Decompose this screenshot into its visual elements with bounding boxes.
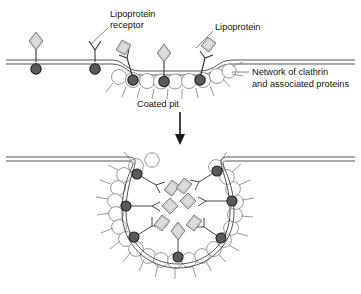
lipoprotein-inner-4 (171, 222, 185, 240)
lipoprotein-bound-2 (116, 40, 131, 55)
lipoprotein-bound-3 (157, 44, 171, 62)
pit2-receptor-1 (132, 169, 180, 196)
receptor-head-2 (90, 64, 100, 74)
lipoprotein-inner-7 (176, 178, 192, 194)
label-clathrin-network-line2: and associated proteins (252, 79, 349, 89)
label-lipoprotein-receptor-line1: Lipoprotein (110, 9, 155, 19)
top-panel: Lipoprotein receptor Lipoprotein Network… (6, 9, 355, 109)
receptor-head-5 (195, 75, 205, 85)
label-lipoprotein-receptor-line2: receptor (110, 20, 144, 30)
plasma-membrane-bottom (6, 157, 355, 268)
pit2-receptor-7 (176, 166, 222, 194)
endocytosis-diagram: Lipoprotein receptor Lipoprotein Network… (0, 0, 361, 294)
receptor-2 (89, 41, 101, 74)
lipoprotein-inner-2 (162, 198, 178, 214)
lipoprotein-bound-4 (201, 37, 216, 52)
receptor-head-3 (128, 75, 138, 85)
leader-lipoprotein-receptor (91, 28, 108, 44)
pit2-receptor-5 (186, 215, 226, 243)
lipoprotein-inner-3 (154, 215, 170, 231)
lipoprotein-inner-5 (186, 215, 202, 231)
label-clathrin-network-line1: Network of clathrin (252, 67, 328, 77)
lipoprotein-inner-6 (180, 193, 196, 209)
pit-receptor-2 (157, 44, 171, 87)
receptor-head-4 (159, 76, 169, 86)
receptor-1 (29, 32, 43, 74)
lipoprotein-bound-1 (29, 32, 43, 50)
bottom-panel (6, 152, 355, 279)
label-lipoprotein: Lipoprotein (215, 22, 260, 32)
pit2-receptor-4 (171, 222, 185, 262)
label-coated-pit: Coated pit (137, 99, 179, 109)
diagram-canvas: Lipoprotein receptor Lipoprotein Network… (0, 0, 361, 294)
pit2-receptor-3 (129, 215, 170, 242)
receptor-head-1 (31, 64, 41, 74)
process-arrow-down (175, 112, 185, 145)
pit2-receptor-2 (121, 198, 178, 214)
